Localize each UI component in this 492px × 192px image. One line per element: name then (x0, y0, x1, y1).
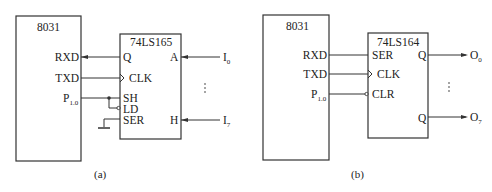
vertical-ellipsis-icon-b (448, 82, 450, 92)
i7-sub: 7 (227, 121, 231, 129)
serial-shift-register-diagrams: 8031 RXD TXD P1.0 74LS165 Q CLK SH LD SE… (0, 0, 492, 192)
diagram-a: 8031 RXD TXD P1.0 74LS165 Q CLK SH LD SE… (16, 16, 231, 181)
p10-sub-b: 1.0 (317, 95, 326, 103)
arrow-into-a-icon (181, 55, 188, 59)
inversion-bubble-ld-icon (117, 106, 120, 109)
caption-b: (b) (351, 168, 364, 181)
caption-a: (a) (94, 168, 107, 181)
mcu-8031-box-a (16, 16, 81, 161)
chip-label-74ls164: 74LS164 (377, 36, 419, 48)
arrow-into-h-icon (181, 118, 188, 122)
pin-h: H (170, 114, 178, 126)
mcu-label-b: 8031 (286, 20, 309, 32)
pin-q-last: Q (418, 112, 427, 124)
pin-ser-b: SER (372, 49, 393, 61)
o7-sub: 7 (478, 118, 482, 126)
p10-sub-a: 1.0 (69, 99, 78, 107)
arrow-out-o0-icon (461, 53, 468, 57)
rxd-label-b: RXD (303, 49, 327, 61)
pin-q-a: Q (123, 51, 132, 63)
chip-label-74ls165: 74LS165 (130, 36, 172, 48)
pin-a: A (170, 51, 179, 63)
txd-label-b: TXD (303, 68, 327, 80)
mcu-label-a: 8031 (37, 21, 60, 33)
inversion-bubble-clr-icon (365, 92, 368, 95)
arrow-out-o7-icon (461, 115, 468, 119)
txd-label-a: TXD (55, 72, 79, 84)
input-i7-label: I7 (223, 114, 231, 129)
mcu-8031-box-b (263, 15, 329, 160)
output-o7-label: O7 (470, 111, 482, 126)
o7-main: O (470, 111, 478, 123)
pin-clk-a: CLK (129, 72, 153, 84)
output-o0-label: O0 (470, 49, 482, 64)
diagram-b: 8031 RXD TXD P1.0 74LS164 SER CLK CLR Q … (263, 15, 482, 181)
arrow-into-rxd-icon (81, 55, 88, 59)
vertical-ellipsis-icon-a (204, 83, 206, 93)
i0-sub: 0 (227, 58, 231, 66)
pin-q-first: Q (418, 49, 427, 61)
rxd-label-a: RXD (55, 51, 79, 63)
pin-clr-b: CLR (372, 88, 395, 100)
pin-ser-a: SER (123, 114, 144, 126)
pin-clk-b: CLK (377, 68, 401, 80)
wire-p10-ld (109, 98, 117, 108)
wire-ser-ground (104, 119, 120, 127)
o0-main: O (470, 49, 478, 61)
o0-sub: 0 (478, 56, 482, 64)
input-i0-label: I0 (223, 51, 231, 66)
